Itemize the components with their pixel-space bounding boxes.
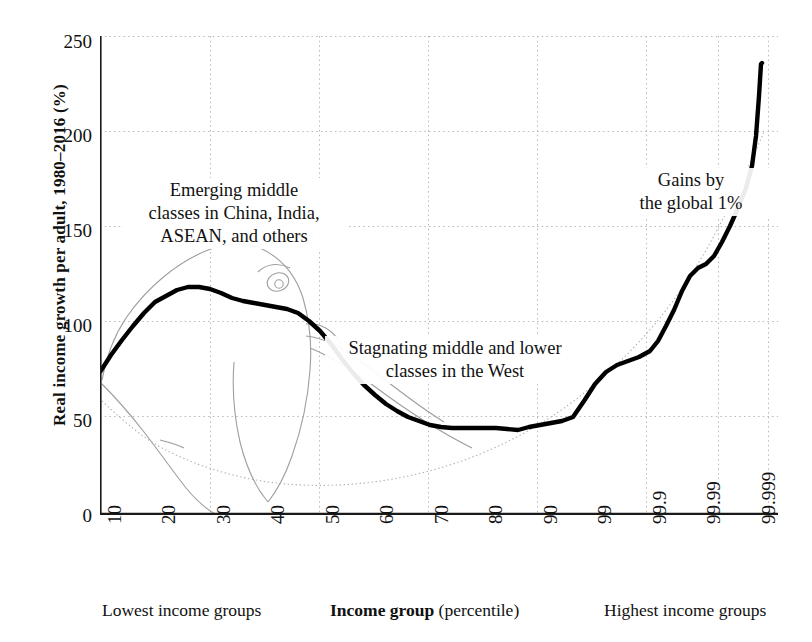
annotation-stagnating-west: Stagnating middle and lower classes in t… <box>325 336 585 384</box>
annotation-gains-global-1pct: Gains by the global 1% <box>600 168 782 216</box>
chart-svg <box>100 36 778 515</box>
x-tick-30: 30 <box>214 505 233 524</box>
annotation-emerging-middle-classes: Emerging middle classes in China, India,… <box>122 178 346 249</box>
footer-lowest-income-groups: Lowest income groups <box>102 600 261 620</box>
x-tick-99-9: 99.9 <box>650 491 669 524</box>
vertical-gridlines <box>211 36 769 515</box>
x-tick-99-999: 99.999 <box>759 472 778 524</box>
x-axis-title-unit: (percentile) <box>439 600 520 620</box>
x-tick-99: 99 <box>595 505 614 524</box>
x-axis-title: Income group (percentile) <box>330 600 519 620</box>
x-tick-60: 60 <box>377 505 396 524</box>
y-tick-150: 150 <box>40 221 92 240</box>
y-tick-50: 50 <box>40 411 92 430</box>
x-axis-tick-labels: 10 20 30 40 50 60 70 80 90 99 99.9 99.99… <box>0 524 812 604</box>
x-tick-40: 40 <box>268 505 287 524</box>
x-axis-title-bold: Income group <box>330 600 434 620</box>
y-tick-0: 0 <box>40 506 92 525</box>
chart-page: Real income growth per adult, 1980–2016 … <box>0 0 812 642</box>
x-tick-50: 50 <box>323 505 342 524</box>
y-tick-250: 250 <box>40 32 92 51</box>
x-tick-80: 80 <box>486 505 505 524</box>
y-tick-200: 200 <box>40 126 92 145</box>
x-tick-10: 10 <box>105 505 124 524</box>
x-tick-90: 90 <box>541 505 560 524</box>
x-tick-20: 20 <box>159 505 178 524</box>
x-tick-99-99: 99.99 <box>704 481 723 524</box>
x-tick-70: 70 <box>432 505 451 524</box>
footer-highest-income-groups: Highest income groups <box>604 600 766 620</box>
y-tick-100: 100 <box>40 316 92 335</box>
plot-area <box>100 36 778 515</box>
